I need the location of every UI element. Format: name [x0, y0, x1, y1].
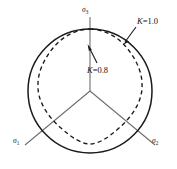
- k-0-8-curve-label: K=0.8: [87, 66, 108, 75]
- k-1-0-curve-label: K=1.0: [137, 17, 158, 26]
- sigma-2-axis-label: σ2: [152, 137, 158, 145]
- sigma-1-axis-label: σ1: [13, 137, 19, 145]
- sigma-3-axis-label: σ3: [82, 6, 88, 14]
